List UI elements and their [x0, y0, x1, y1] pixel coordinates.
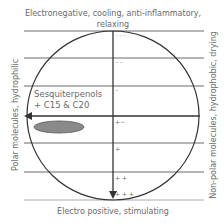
left-label: Polar molecules, hydrophilic — [11, 59, 20, 171]
top-label-line2: relaxing — [97, 20, 129, 29]
diagram-canvas: Sesquiterpenols + C15 & C20 − − − − − − … — [0, 0, 224, 224]
region-mark-7: + + + — [115, 190, 134, 197]
compound-ellipse — [34, 121, 84, 133]
bottom-label: Electro positive, stimulating — [57, 207, 169, 216]
region-mark-5: + — [115, 145, 120, 152]
right-label: Non-polar molecules, hydrophobic, drying — [209, 31, 218, 199]
region-mark-6: + + — [115, 174, 127, 181]
top-label-line1: Electronegative, cooling, anti-inflammat… — [25, 9, 201, 18]
region-mark-4: +− — [115, 118, 125, 125]
region-mark-1: − − − — [115, 34, 126, 38]
compound-label-line1: Sesquiterpenols — [34, 89, 103, 99]
region-mark-3: − — [115, 88, 118, 93]
compound-label-line2: + C15 & C20 — [34, 100, 89, 110]
region-mark-2: − − — [115, 60, 123, 65]
